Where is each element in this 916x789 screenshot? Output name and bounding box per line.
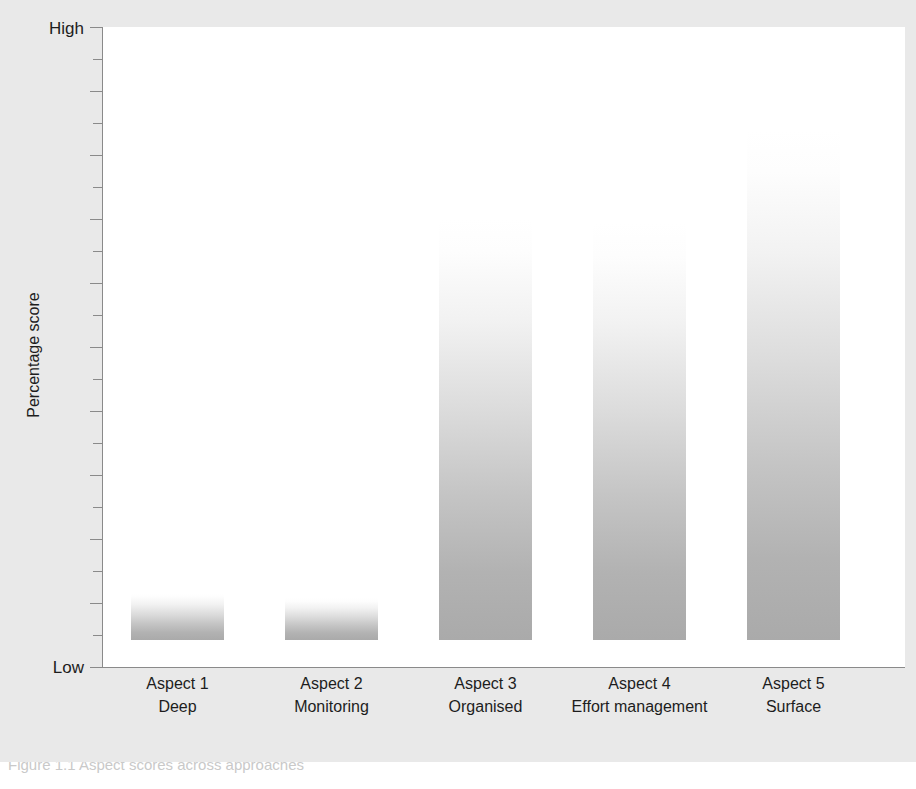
x-axis-label-4: Aspect 4Effort management: [560, 672, 720, 718]
x-axis-label-name: Deep: [98, 695, 258, 718]
x-axis-label-3: Aspect 3Organised: [406, 672, 566, 718]
x-axis-label-name: Organised: [406, 695, 566, 718]
bar-5: [747, 131, 840, 640]
x-axis-label-code: Aspect 1: [98, 672, 258, 695]
bar-4: [593, 222, 686, 640]
figure-container: High Low Percentage score Aspect 1DeepAs…: [0, 0, 916, 789]
x-axis-label-2: Aspect 2Monitoring: [252, 672, 412, 718]
x-axis-label-5: Aspect 5Surface: [714, 672, 874, 718]
x-axis-labels: Aspect 1DeepAspect 2MonitoringAspect 3Or…: [0, 672, 916, 760]
x-axis-label-code: Aspect 5: [714, 672, 874, 695]
x-axis-label-name: Effort management: [560, 695, 720, 718]
x-axis-label-1: Aspect 1Deep: [98, 672, 258, 718]
x-axis-label-name: Surface: [714, 695, 874, 718]
figure-caption: Figure 1.1 Aspect scores across approach…: [8, 762, 304, 773]
x-axis-label-code: Aspect 3: [406, 672, 566, 695]
x-axis-label-name: Monitoring: [252, 695, 412, 718]
bars-layer: [0, 0, 916, 762]
bar-1: [131, 593, 224, 640]
x-axis-label-code: Aspect 2: [252, 672, 412, 695]
x-axis-label-code: Aspect 4: [560, 672, 720, 695]
caption-strip: Figure 1.1 Aspect scores across approach…: [0, 762, 916, 789]
bar-3: [439, 218, 532, 640]
bar-2: [285, 598, 378, 640]
